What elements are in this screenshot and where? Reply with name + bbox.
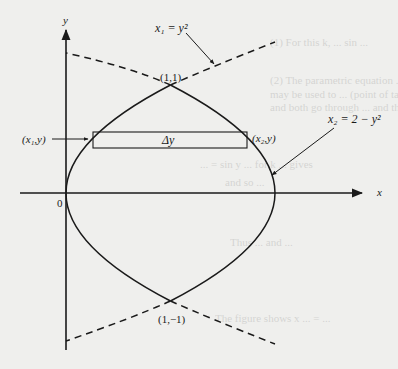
- curve-x1-label: x₁ = y²: [155, 22, 188, 34]
- curve-x2-dashed-top: [66, 53, 171, 85]
- origin-label: 0: [57, 198, 63, 209]
- diagram-canvas: [0, 0, 398, 369]
- point-label-top-intersection: (1,1): [160, 72, 181, 83]
- point-label-right-strip: (x₂,y): [252, 133, 276, 144]
- curve-x2-dashed-bottom: [66, 301, 171, 341]
- x-axis-label: x: [377, 187, 382, 198]
- region-diagram: (1) For this k, ... sin ... (2) The para…: [0, 0, 398, 369]
- point-label-bottom-intersection: (1,−1): [158, 314, 185, 325]
- curve-x1-dashed-top: [171, 42, 276, 85]
- pointer-x2-label: [272, 128, 334, 175]
- strip-delta-y-label: Δy: [162, 134, 174, 146]
- curve-x2-label: x₂ = 2 − y²: [328, 113, 381, 125]
- curve-x1-dashed-bottom: [171, 301, 276, 344]
- point-label-left-strip: (x₁,y): [22, 134, 46, 145]
- pointer-x1-label: [186, 33, 214, 64]
- y-axis-label: y: [63, 15, 68, 26]
